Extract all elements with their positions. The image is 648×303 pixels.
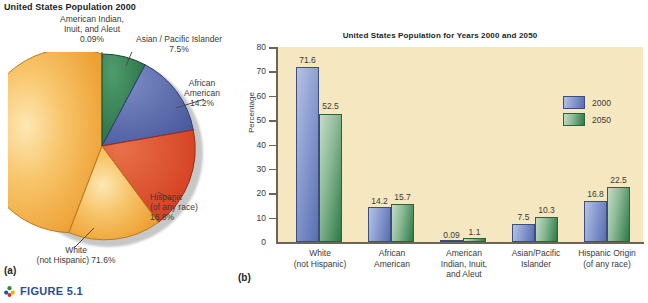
figure-caption-label: FIGURE 5.1: [20, 285, 83, 297]
pie-label-hispanic: Hispanic (of any race) 16.8%: [150, 192, 238, 222]
y-tick-40: [269, 145, 277, 147]
legend-swatch-2050: [563, 113, 585, 126]
y-tick-label-30: 30: [240, 164, 266, 174]
pie-label-african-american: African American 14.2%: [172, 78, 232, 108]
pie-label-hispanic-line2: (of any race): [150, 202, 238, 212]
y-tick-20: [269, 193, 277, 195]
y-tick-label-10: 10: [240, 213, 266, 223]
x-category-american-indian-line3: and Aleut: [420, 269, 508, 280]
y-tick-60: [269, 96, 277, 98]
x-category-hispanic-line1: Hispanic Origin: [563, 248, 648, 259]
bar-african-american-2000: [368, 207, 391, 242]
pie-label-white-line2: (not Hispanic) 71.6%: [6, 255, 146, 265]
bar-value-american-indian-2050: 1.1: [460, 227, 489, 237]
bar-chart-legend: 2000 2050: [563, 96, 635, 130]
y-tick-label-80: 80: [240, 42, 266, 52]
pie-label-asian-pacific-islander: Asian / Pacific Islander 7.5%: [124, 34, 234, 54]
y-tick-label-70: 70: [240, 66, 266, 76]
legend-item-2050: 2050: [563, 113, 635, 126]
pie-label-hispanic-line3: 16.8%: [150, 212, 238, 222]
panel-a-pie-chart: United States Population 2000: [0, 0, 238, 303]
panel-b-tag: (b): [238, 272, 251, 283]
y-tick-30: [269, 169, 277, 171]
y-axis-title: Percentage: [247, 78, 256, 148]
x-axis-line: [276, 242, 644, 244]
flower-icon: [4, 286, 15, 297]
pie-label-american-indian-line2: Inuit, and Aleut: [30, 24, 154, 34]
bar-chart-title: United States Population for Years 2000 …: [238, 31, 642, 40]
panel-b-bar-chart: United States Population for Years 2000 …: [238, 0, 648, 303]
pie-label-asian-line1: Asian / Pacific Islander: [124, 34, 234, 44]
pie-label-african-line3: 14.2%: [172, 98, 232, 108]
bar-white-2050: [319, 114, 342, 242]
legend-label-2000: 2000: [592, 98, 611, 108]
pie-label-white: White (not Hispanic) 71.6%: [6, 245, 146, 265]
legend-swatch-2000: [563, 96, 585, 109]
legend-item-2000: 2000: [563, 96, 635, 109]
pie-chart-title: United States Population 2000: [4, 2, 136, 12]
pie-label-african-line1: African: [172, 78, 232, 88]
bar-white-2000: [296, 67, 319, 242]
bar-hispanic-2000: [584, 201, 607, 242]
y-tick-label-20: 20: [240, 188, 266, 198]
bar-value-african-american-2050: 15.7: [387, 192, 418, 202]
bar-african-american-2050: [391, 204, 414, 242]
y-tick-10: [269, 218, 277, 220]
bar-value-hispanic-2000: 16.8: [580, 189, 611, 199]
pie-label-asian-line2: 7.5%: [124, 44, 234, 54]
pie-label-white-line1: White: [6, 245, 146, 255]
x-category-hispanic: Hispanic Origin (of any race): [563, 248, 648, 269]
bar-chart-plot-area: 2000 2050 71.6 52.5 14.2 15.7 0.09 1.1 7…: [278, 47, 643, 242]
pie-label-hispanic-line1: Hispanic: [150, 192, 238, 202]
bar-value-asian-pacific-2050: 10.3: [531, 205, 562, 215]
bar-value-hispanic-2050: 22.5: [603, 175, 634, 185]
legend-label-2050: 2050: [592, 115, 611, 125]
y-tick-50: [269, 120, 277, 122]
pie-label-african-line2: American: [172, 88, 232, 98]
panel-a-tag: (a): [4, 265, 16, 276]
x-category-hispanic-line2: (of any race): [563, 259, 648, 270]
pie-label-american-indian-line1: American Indian,: [30, 14, 154, 24]
y-tick-70: [269, 71, 277, 73]
y-tick-80: [269, 47, 277, 49]
bar-value-white-2050: 52.5: [315, 101, 346, 111]
bar-asian-pacific-2000: [512, 224, 535, 242]
figure-caption: FIGURE 5.1: [4, 285, 83, 297]
y-tick-label-0: 0: [240, 237, 266, 247]
bar-value-white-2000: 71.6: [292, 55, 323, 65]
